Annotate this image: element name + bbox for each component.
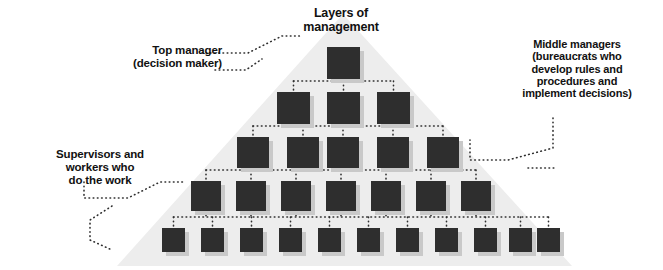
label-top-manager: Top manager (decision maker) — [62, 44, 222, 70]
pyramid-diagram: Layers of management Top manager (decisi… — [0, 0, 663, 270]
page-title: Layers of management — [276, 6, 406, 34]
label-supervisors: Supervisors and workers who do the work — [20, 148, 180, 187]
label-middle-managers: Middle managers (bureaucrats who develop… — [492, 38, 662, 100]
